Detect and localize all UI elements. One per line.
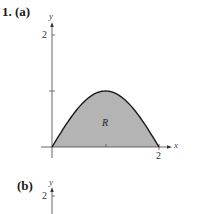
y-tick-label-2: 2: [42, 29, 47, 40]
y-tick-label-b-2: 2: [42, 190, 47, 201]
x-tick-label-2: 2: [156, 150, 161, 161]
chart-canvas: [0, 0, 201, 214]
x-axis-arrow-icon: [167, 145, 172, 148]
y-axis-arrow-icon: [50, 22, 53, 27]
x-axis-label-a: x: [174, 140, 178, 150]
region-label: R: [102, 117, 108, 128]
y-axis-label-b: y: [49, 177, 53, 187]
y-axis-b-arrow-icon: [50, 187, 53, 192]
y-axis-label-a: y: [49, 11, 53, 21]
